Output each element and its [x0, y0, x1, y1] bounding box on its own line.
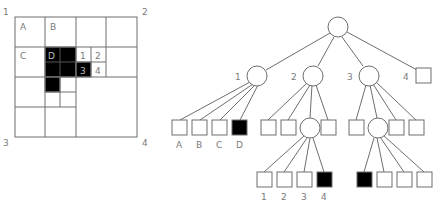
- tree-leaf-label-3: 3: [301, 192, 307, 202]
- tree-leaf: [397, 172, 412, 187]
- tree-leaf-label-B: B: [196, 140, 202, 150]
- corner-label-2: 2: [142, 7, 148, 17]
- tree-leaf-label-D: D: [236, 140, 243, 150]
- tree-node-4-leaf: [416, 68, 431, 83]
- tree-leaf-label-C: C: [216, 140, 222, 150]
- quadtree-grid: A B C D 1 2 3 4 1 2 3 4: [3, 7, 148, 148]
- quadtree-tree: 1 2 3 4 A B C D 1 2 3 4: [172, 17, 432, 202]
- tree-leaf-label-1: 1: [261, 192, 267, 202]
- tree-leaf: [389, 120, 404, 135]
- cell-label-1: 1: [80, 51, 86, 61]
- corner-label-1: 1: [3, 7, 9, 17]
- tree-leaf-1: [257, 172, 272, 187]
- cell-label-B: B: [50, 22, 56, 32]
- tree-label-2: 2: [291, 72, 297, 82]
- cell-label-4: 4: [95, 66, 101, 76]
- tree-leaf: [349, 120, 364, 135]
- tree-label-1: 1: [235, 72, 241, 82]
- tree-leaf-D: [232, 120, 247, 135]
- cell-label-2: 2: [95, 51, 101, 61]
- tree-leaf: [409, 120, 424, 135]
- tree-leaf-B: [192, 120, 207, 135]
- tree-internal-node: [300, 118, 320, 138]
- tree-leaf: [357, 172, 372, 187]
- tree-label-4: 4: [403, 72, 409, 82]
- tree-leaf: [281, 120, 296, 135]
- tree-leaf-label-2: 2: [281, 192, 287, 202]
- tree-leaf: [321, 120, 336, 135]
- quadtree-diagram: A B C D 1 2 3 4 1 2 3 4: [0, 0, 444, 207]
- tree-label-3: 3: [347, 72, 353, 82]
- tree-internal-node: [368, 118, 388, 138]
- tree-leaf-label-A: A: [176, 140, 183, 150]
- corner-label-4: 4: [142, 138, 148, 148]
- cell-black-lower: [45, 77, 60, 92]
- tree-leaf: [417, 172, 432, 187]
- tree-leaf-3: [297, 172, 312, 187]
- cell-label-C: C: [20, 51, 26, 61]
- tree-leaf: [377, 172, 392, 187]
- corner-label-3: 3: [3, 138, 9, 148]
- tree-leaf-2: [277, 172, 292, 187]
- cell-label-D: D: [48, 51, 55, 61]
- tree-leaf-4: [317, 172, 332, 187]
- cell-label-3: 3: [80, 66, 86, 76]
- tree-node-3: [359, 66, 379, 86]
- cell-label-A: A: [20, 22, 27, 32]
- tree-node-1: [247, 66, 267, 86]
- tree-leaf-label-4: 4: [321, 192, 327, 202]
- tree-node-2: [303, 66, 323, 86]
- tree-leaf: [261, 120, 276, 135]
- tree-root-node: [328, 17, 348, 37]
- tree-leaf-C: [212, 120, 227, 135]
- tree-leaf-A: [172, 120, 187, 135]
